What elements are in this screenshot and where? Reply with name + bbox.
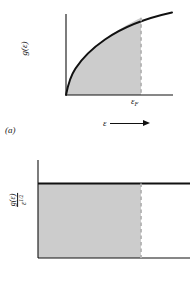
panel-b-plot (0, 148, 190, 296)
panel-b-shaded-area (38, 184, 141, 259)
panel-b-denominator-exponent: 1/2 (18, 195, 24, 202)
panel-b-y-axis-numerator: g(ε) (8, 193, 18, 207)
panel-a-plot (0, 0, 190, 148)
panel-b-y-axis-fraction: g(ε) ε1/2 (8, 193, 28, 207)
density-of-states-figure: g(ε) εF ε (a) εF ε (0, 0, 190, 296)
panel-a: g(ε) εF ε (a) (0, 0, 190, 148)
panel-a-shaded-area (66, 18, 141, 95)
panel-a-y-axis-label: g(ε) (20, 19, 29, 79)
panel-a-fermi-subscript: F (135, 100, 139, 107)
panel-a-x-axis-label-group: ε (103, 118, 150, 128)
panel-b-y-axis-denominator: ε1/2 (18, 193, 28, 207)
panel-a-fermi-energy-label: εF (131, 96, 138, 107)
panel-a-arrow-icon (110, 120, 150, 127)
panel-a-tag: (a) (5, 125, 16, 135)
panel-b-denominator-symbol: ε (19, 202, 28, 205)
panel-b: εF ε (b) (0, 148, 190, 296)
panel-b-y-axis-label: g(ε) ε1/2 (8, 170, 28, 230)
panel-a-x-axis-label: ε (103, 118, 107, 128)
